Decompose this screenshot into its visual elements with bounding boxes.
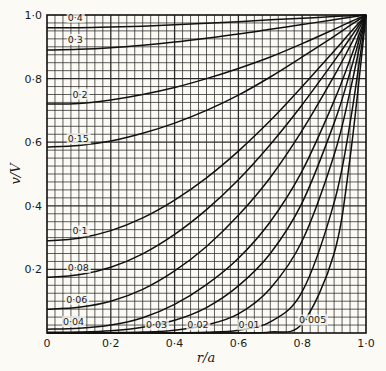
x-tick-label: 0: [44, 337, 51, 350]
y-tick-label: 1·0: [25, 9, 43, 22]
y-axis-label: v/V: [8, 162, 23, 185]
y-tick-label: 0·8: [25, 73, 43, 86]
x-tick-label: 0·6: [230, 337, 248, 350]
curve-labels: 0·40·30·20·150·10·080·060·040·030·020·01…: [62, 12, 328, 331]
curve-label: 0·04: [63, 316, 84, 327]
curve-label: 0·01: [238, 319, 259, 330]
curve-label: 0·3: [68, 34, 83, 45]
x-tick-label: 0·2: [102, 337, 120, 350]
y-axis-ticks: 0·20·40·60·81·0: [25, 9, 43, 276]
x-tick-label: 0·8: [293, 337, 311, 350]
curve-label: 0·4: [68, 12, 83, 23]
curve-label: 0·15: [68, 133, 89, 144]
curve-label: 0·005: [299, 314, 326, 325]
y-tick-label: 0·2: [25, 263, 43, 276]
y-tick-label: 0·6: [25, 136, 43, 149]
curve-label: 0·08: [68, 262, 89, 273]
curve-label: 0·02: [187, 319, 208, 330]
curve-label: 0·03: [146, 319, 167, 330]
x-axis-label: r/a: [197, 350, 215, 365]
chart-figure: 0·40·30·20·150·10·080·060·040·030·020·01…: [0, 0, 386, 371]
y-tick-label: 0·4: [25, 200, 43, 213]
curve-label: 0·1: [73, 225, 88, 236]
x-tick-label: 0·4: [166, 337, 184, 350]
x-axis-ticks: 00·20·40·60·81·0: [44, 337, 375, 350]
curve-label: 0·2: [73, 89, 88, 100]
x-tick-label: 1·0: [357, 337, 375, 350]
curve-label: 0·06: [66, 294, 87, 305]
